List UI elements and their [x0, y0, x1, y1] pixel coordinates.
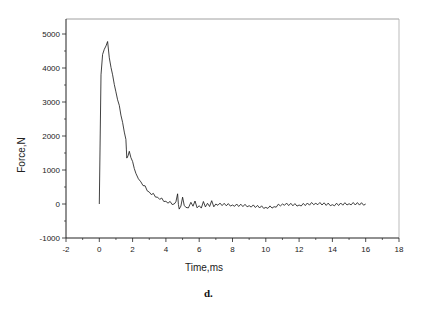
x-tick-label: 14 [328, 245, 337, 254]
y-tick-label: 5000 [42, 30, 60, 39]
force-time-chart: -2024681012141618-1000010002000300040005… [0, 0, 422, 313]
x-tick-label: 4 [164, 245, 169, 254]
y-tick-label: 2000 [42, 132, 60, 141]
y-tick-label: 1000 [42, 166, 60, 175]
y-tick-label: 0 [56, 200, 61, 209]
x-tick-label: 6 [197, 245, 202, 254]
x-axis-label: Time,ms [185, 262, 223, 273]
x-tick-label: -2 [62, 245, 70, 254]
x-tick-label: 18 [395, 245, 404, 254]
figure-caption: d. [204, 287, 213, 299]
y-axis-label: Force,N [16, 137, 27, 173]
x-tick-label: 0 [97, 245, 102, 254]
y-tick-label: 3000 [42, 98, 60, 107]
x-tick-label: 10 [261, 245, 270, 254]
x-tick-label: 2 [130, 245, 135, 254]
x-tick-label: 16 [361, 245, 370, 254]
y-tick-label: 4000 [42, 64, 60, 73]
plot-axes: -2024681012141618-1000010002000300040005… [40, 19, 404, 254]
force-series-line [99, 42, 365, 210]
x-tick-label: 12 [295, 245, 304, 254]
x-tick-label: 8 [230, 245, 235, 254]
y-tick-label: -1000 [40, 234, 61, 243]
